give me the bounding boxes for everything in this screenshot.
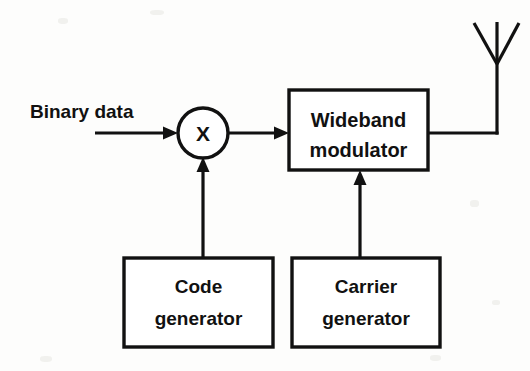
code-generator-label-line2: generator xyxy=(155,308,243,329)
carrier-generator-label-line1: Carrier xyxy=(335,276,398,297)
antenna-element-left xyxy=(474,23,497,64)
antenna-element-right xyxy=(497,23,519,64)
code-generator-label-line1: Code xyxy=(175,276,223,297)
code-generator-box xyxy=(124,258,273,347)
diagram-canvas: Binary data X Wideband modulator Code ge… xyxy=(0,0,530,371)
arrowhead-into-modulator-bottom xyxy=(354,170,367,185)
block-diagram: Binary data X Wideband modulator Code ge… xyxy=(0,0,530,371)
carrier-generator-label-line2: generator xyxy=(322,308,410,329)
arrowhead-into-multiplier xyxy=(163,127,178,140)
wideband-modulator-label-line2: modulator xyxy=(310,139,408,161)
binary-data-label: Binary data xyxy=(30,101,134,122)
wideband-modulator-label-line1: Wideband xyxy=(311,109,406,131)
arrowhead-into-modulator xyxy=(274,127,289,140)
multiplier-label: X xyxy=(196,122,210,145)
carrier-generator-box xyxy=(292,258,440,347)
